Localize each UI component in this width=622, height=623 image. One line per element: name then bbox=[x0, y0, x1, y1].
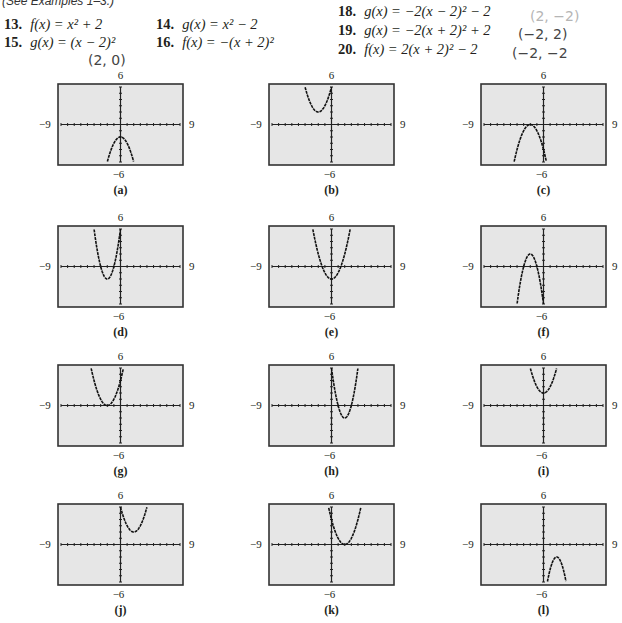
ymin-label: −6 bbox=[532, 588, 552, 600]
xmax-label: 9 bbox=[189, 260, 195, 272]
graph-panel: 6−6−99(l) bbox=[450, 489, 622, 623]
ymax-label: 6 bbox=[111, 350, 131, 362]
graph-label: (i) bbox=[529, 464, 559, 479]
ymin-label: −6 bbox=[109, 449, 129, 461]
xmax-label: 9 bbox=[612, 538, 618, 550]
xmin-label: −9 bbox=[250, 399, 262, 411]
exercise-20: 20.f(x) = 2(x + 2)² − 2 bbox=[338, 41, 478, 58]
ymin-label: −6 bbox=[532, 310, 552, 322]
graph-panel: 6−6−99(a) bbox=[27, 69, 207, 207]
handwritten-note-18: (2, −2) bbox=[530, 8, 579, 24]
xmin-label: −9 bbox=[39, 260, 51, 272]
xmin-label: −9 bbox=[462, 399, 474, 411]
graph-panel: 6−6−99(b) bbox=[238, 69, 418, 207]
handwritten-note-20: (−2, −2 bbox=[512, 45, 568, 61]
ymin-label: −6 bbox=[320, 310, 340, 322]
ymax-label: 6 bbox=[111, 211, 131, 223]
graph-panel: 6−6−99(f) bbox=[450, 211, 622, 349]
ymin-label: −6 bbox=[109, 310, 129, 322]
graph-label: (j) bbox=[106, 603, 136, 618]
xmax-label: 9 bbox=[189, 399, 195, 411]
graph-label: (l) bbox=[529, 603, 559, 618]
graph-label: (k) bbox=[317, 603, 347, 618]
xmax-label: 9 bbox=[612, 399, 618, 411]
xmax-label: 9 bbox=[189, 118, 195, 130]
ymax-label: 6 bbox=[534, 350, 554, 362]
xmax-label: 9 bbox=[400, 399, 406, 411]
graph-panel: 6−6−99(k) bbox=[238, 489, 418, 623]
xmin-label: −9 bbox=[250, 260, 262, 272]
xmin-label: −9 bbox=[39, 538, 51, 550]
graph-panel: 6−6−99(j) bbox=[27, 489, 207, 623]
xmin-label: −9 bbox=[39, 399, 51, 411]
graph-label: (g) bbox=[106, 464, 136, 479]
xmax-label: 9 bbox=[189, 538, 195, 550]
exercise-number: 18. bbox=[338, 3, 356, 19]
exercise-15: 15.g(x) = (x − 2)² bbox=[4, 34, 115, 51]
graph-panel: 6−6−99(i) bbox=[450, 350, 622, 488]
graph-label: (c) bbox=[529, 183, 559, 198]
ymax-label: 6 bbox=[534, 489, 554, 501]
ymax-label: 6 bbox=[111, 489, 131, 501]
ymax-label: 6 bbox=[534, 69, 554, 81]
ymin-label: −6 bbox=[532, 449, 552, 461]
ymax-label: 6 bbox=[322, 69, 342, 81]
ymin-label: −6 bbox=[109, 588, 129, 600]
ymin-label: −6 bbox=[532, 168, 552, 180]
exercise-number: 14. bbox=[156, 16, 174, 32]
parabola-graph bbox=[480, 364, 607, 447]
graph-label: (f) bbox=[529, 325, 559, 340]
graph-label: (d) bbox=[106, 325, 136, 340]
graph-panel: 6−6−99(c) bbox=[450, 69, 622, 207]
exercise-19: 19.g(x) = −2(x + 2)² + 2 bbox=[338, 22, 491, 39]
xmin-label: −9 bbox=[250, 118, 262, 130]
graph-panel: 6−6−99(d) bbox=[27, 211, 207, 349]
parabola-graph bbox=[57, 225, 184, 308]
parabola-graph bbox=[268, 364, 395, 447]
exercise-number: 15. bbox=[4, 34, 22, 50]
parabola-graph bbox=[480, 225, 607, 308]
exercise-number: 19. bbox=[338, 22, 356, 38]
exercise-number: 20. bbox=[338, 41, 356, 57]
xmax-label: 9 bbox=[400, 118, 406, 130]
parabola-graph bbox=[57, 364, 184, 447]
exercise-number: 16. bbox=[156, 34, 174, 50]
parabola-graph bbox=[480, 503, 607, 586]
handwritten-note-19: (−2, 2) bbox=[518, 26, 567, 42]
exercise-18: 18.g(x) = −2(x − 2)² − 2 bbox=[338, 3, 491, 20]
handwritten-note-15: (2, 0) bbox=[88, 52, 126, 68]
exercise-equation: g(x) = −2(x − 2)² − 2 bbox=[364, 3, 490, 19]
ymin-label: −6 bbox=[320, 588, 340, 600]
ymin-label: −6 bbox=[109, 168, 129, 180]
ymin-label: −6 bbox=[320, 449, 340, 461]
ymax-label: 6 bbox=[322, 489, 342, 501]
graph-panel: 6−6−99(e) bbox=[238, 211, 418, 349]
ymax-label: 6 bbox=[322, 350, 342, 362]
exercise-equation: f(x) = −(x + 2)² bbox=[182, 34, 274, 50]
parabola-graph bbox=[268, 225, 395, 308]
xmin-label: −9 bbox=[462, 538, 474, 550]
parabola-graph bbox=[57, 83, 184, 166]
exercise-13: 13.f(x) = x² + 2 bbox=[4, 16, 102, 33]
xmax-label: 9 bbox=[400, 538, 406, 550]
exercise-equation: g(x) = (x − 2)² bbox=[30, 34, 115, 50]
exercise-equation: f(x) = x² + 2 bbox=[30, 16, 102, 32]
exercise-equation: g(x) = x² − 2 bbox=[182, 16, 257, 32]
xmax-label: 9 bbox=[612, 260, 618, 272]
ymax-label: 6 bbox=[111, 69, 131, 81]
xmax-label: 9 bbox=[400, 260, 406, 272]
parabola-graph bbox=[57, 503, 184, 586]
graph-label: (e) bbox=[317, 325, 347, 340]
ymax-label: 6 bbox=[534, 211, 554, 223]
graph-label: (a) bbox=[106, 183, 136, 198]
parabola-graph bbox=[268, 83, 395, 166]
ymax-label: 6 bbox=[322, 211, 342, 223]
exercise-equation: f(x) = 2(x + 2)² − 2 bbox=[364, 41, 477, 57]
examples-reference: (See Examples 1–3.) bbox=[2, 0, 114, 8]
parabola-graph bbox=[480, 83, 607, 166]
parabola-graph bbox=[268, 503, 395, 586]
exercise-14: 14.g(x) = x² − 2 bbox=[156, 16, 258, 33]
xmin-label: −9 bbox=[462, 118, 474, 130]
graph-label: (h) bbox=[317, 464, 347, 479]
exercise-16: 16.f(x) = −(x + 2)² bbox=[156, 34, 274, 51]
